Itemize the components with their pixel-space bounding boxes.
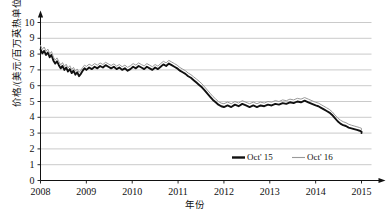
legend-label-1: Oct' 15 [247, 153, 273, 162]
legend-label-2: Oct' 16 [307, 153, 333, 162]
gridlines [41, 23, 372, 165]
series-line-1 [41, 49, 362, 133]
plot-svg [0, 0, 390, 214]
series-lines [41, 45, 362, 133]
chart-container: 价格/(美元/百万英热单位) 年份 012345678910 200820092… [0, 0, 390, 214]
axis-lines [38, 11, 386, 184]
